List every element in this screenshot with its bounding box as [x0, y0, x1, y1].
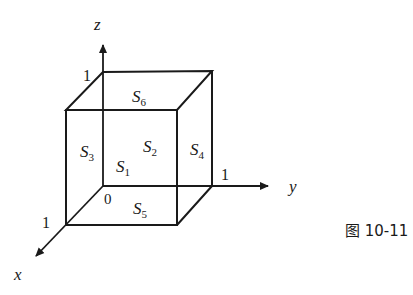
- face-label-s4: S4: [190, 140, 205, 161]
- origin-label: 0: [104, 191, 112, 207]
- x-axis-label: x: [13, 265, 22, 284]
- svg-text:S4: S4: [190, 140, 205, 161]
- svg-text:S5: S5: [133, 199, 148, 220]
- figure-caption: 图 10-11: [345, 222, 408, 240]
- face-label-s6: S6: [132, 87, 147, 108]
- face-label-s5: S5: [133, 199, 148, 220]
- y-axis-label: y: [287, 177, 297, 196]
- face-label-s3: S3: [80, 142, 95, 163]
- z-axis-label: z: [93, 15, 101, 34]
- svg-text:S3: S3: [80, 142, 95, 163]
- x-tick-1: 1: [42, 214, 50, 231]
- svg-text:S6: S6: [132, 87, 147, 108]
- cube-diagram: z y x 1 1 1 0 S6 S3 S2 S4 S1 S5 图 10-11: [0, 0, 413, 295]
- svg-text:S2: S2: [143, 137, 157, 158]
- y-tick-1: 1: [221, 166, 229, 183]
- face-label-s2: S2: [143, 137, 157, 158]
- z-tick-1: 1: [83, 67, 91, 84]
- svg-text:S1: S1: [116, 157, 130, 178]
- face-label-s1: S1: [116, 157, 130, 178]
